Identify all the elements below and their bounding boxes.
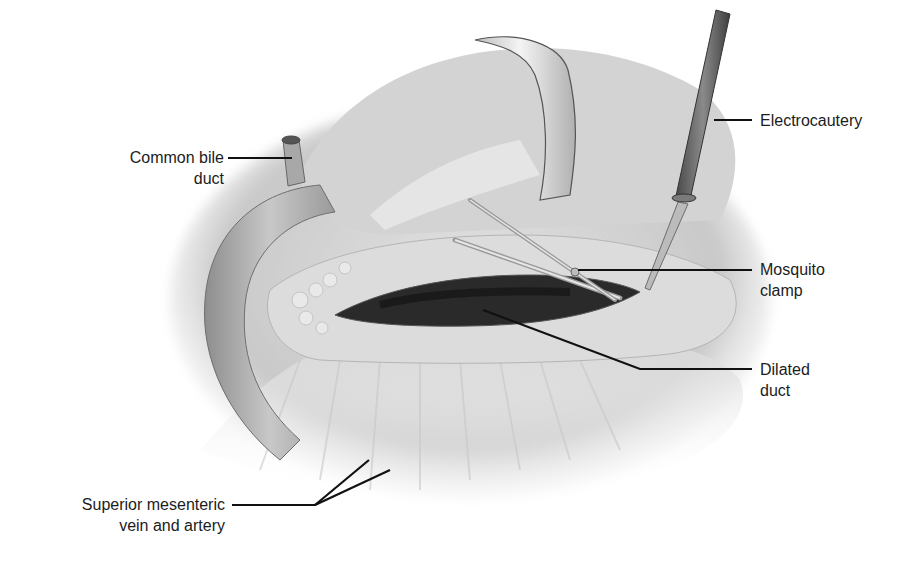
bile-duct-opening	[282, 136, 300, 144]
label-line: Electrocautery	[760, 110, 862, 131]
label-line: Mosquito	[760, 259, 825, 280]
label-line: duct	[760, 380, 810, 401]
label-mosquito-clamp: Mosquito clamp	[760, 259, 825, 301]
label-superior-mesenteric: Superior mesenteric vein and artery	[20, 494, 225, 536]
label-line: Dilated	[760, 359, 810, 380]
label-line: vein and artery	[20, 515, 225, 536]
label-line: clamp	[760, 280, 825, 301]
label-line: Common bile	[60, 147, 224, 168]
label-line: duct	[60, 168, 224, 189]
label-line: Superior mesenteric	[20, 494, 225, 515]
label-dilated-duct: Dilated duct	[760, 359, 810, 401]
label-electrocautery: Electrocautery	[760, 110, 862, 131]
label-common-bile-duct: Common bile duct	[60, 147, 224, 189]
